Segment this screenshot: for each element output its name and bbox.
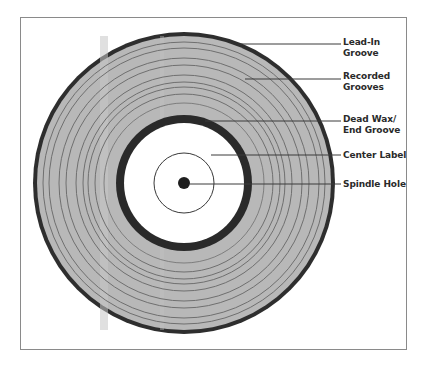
label-dead-wax-end-groove: Dead Wax/ End Groove: [343, 114, 400, 136]
label-line: Center Label: [343, 150, 406, 161]
label-line: Recorded: [343, 71, 390, 82]
spindle-hole: [178, 177, 190, 189]
label-center-label: Center Label: [343, 150, 406, 161]
label-recorded-grooves: Recorded Grooves: [343, 71, 390, 93]
label-spindle-hole: Spindle Hole: [343, 179, 406, 190]
label-line: End Groove: [343, 125, 400, 136]
label-lead-in-groove: Lead-In Groove: [343, 37, 380, 59]
label-line: Lead-In: [343, 37, 380, 48]
label-line: Spindle Hole: [343, 179, 406, 190]
label-line: Dead Wax/: [343, 114, 400, 125]
label-line: Grooves: [343, 82, 390, 93]
label-line: Groove: [343, 48, 380, 59]
